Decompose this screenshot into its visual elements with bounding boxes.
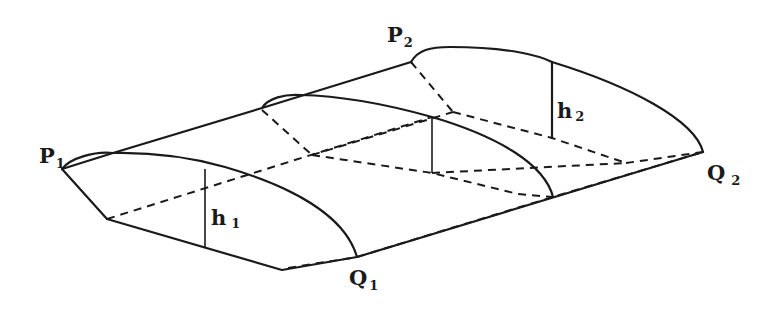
label-h1: h1	[211, 205, 240, 231]
dashed-p2-trailing	[626, 152, 703, 163]
front-lower-edge	[62, 152, 703, 270]
label-p2: P2	[387, 22, 413, 50]
wing-surface-diagram: P1 P2 Q1 Q2 h1 h2	[0, 0, 775, 311]
dashed-p2-spar	[453, 112, 626, 163]
visible-edges	[62, 47, 703, 270]
label-p1: P1	[39, 143, 65, 171]
hidden-edges	[107, 62, 703, 268]
dashed-rear-lower	[432, 163, 626, 173]
label-q2: Q2	[707, 160, 740, 188]
label-h2: h2	[557, 98, 584, 124]
dashed-mid-chord-left	[262, 110, 312, 155]
dashed-p2-chord-left	[411, 62, 453, 112]
label-q1: Q1	[349, 265, 378, 293]
